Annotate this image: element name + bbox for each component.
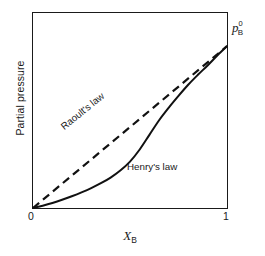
pure-vapor-pressure-superscript: 0 bbox=[239, 19, 243, 28]
pure-vapor-pressure-label: p0B bbox=[232, 20, 243, 37]
x-tick-label-1: 1 bbox=[223, 210, 229, 222]
x-axis-title: XB bbox=[32, 228, 228, 245]
x-axis-symbol: X bbox=[123, 228, 131, 243]
x-axis-subscript: B bbox=[131, 235, 137, 245]
y-axis-title: Partial pressure bbox=[14, 28, 26, 168]
henrys-law-label: Henry's law bbox=[127, 161, 177, 172]
pure-vapor-pressure-subscript: B bbox=[238, 28, 243, 37]
chart-figure: Partial pressure XB 0 1 Raoult's law Hen… bbox=[0, 0, 265, 256]
x-tick-label-0: 0 bbox=[28, 210, 34, 222]
